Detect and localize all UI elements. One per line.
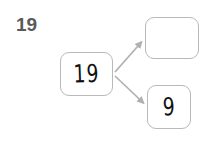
target-number-box-top[interactable] <box>145 17 199 59</box>
source-number-box[interactable]: 19 <box>60 52 113 96</box>
target-number-value-bottom: 9 <box>162 94 176 119</box>
target-number-box-bottom[interactable]: 9 <box>147 85 191 129</box>
arrow-to-bottom-box <box>115 76 144 103</box>
problem-number: 19 <box>16 14 37 36</box>
worksheet-canvas: 19 19 9 <box>0 0 213 149</box>
source-number-value: 19 <box>73 61 100 87</box>
arrow-to-top-box <box>115 42 142 72</box>
